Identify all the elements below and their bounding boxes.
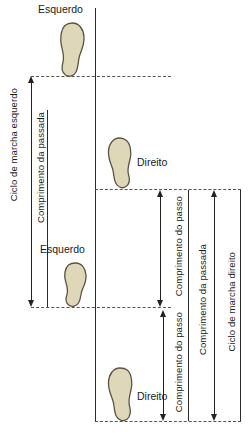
label-ciclo-marcha-direito: Ciclo de marcha direito [227, 252, 237, 351]
arrow-head-right-stride-bottom [211, 414, 217, 421]
left-measure-axis [47, 110, 48, 307]
label-foot-right-1: Direito [137, 157, 167, 168]
arrow-head-left-stride-top [28, 76, 34, 83]
label-foot-left-1: Esquerdo [38, 4, 83, 15]
footprint-right-2 [107, 367, 135, 422]
arrow-head-left-stride-bottom [28, 300, 34, 307]
footprint-right-1 [107, 137, 134, 190]
arrow-line-left-stride [31, 83, 32, 300]
arrow-head-step-2-top [160, 310, 166, 317]
footprint-left-1 [58, 22, 86, 78]
label-ciclo-marcha-esquerdo: Ciclo de marcha esquerdo [9, 88, 19, 201]
arrow-head-right-stride-top [211, 190, 217, 197]
dashed-guide-left-heel-1 [31, 76, 171, 77]
arrow-head-step-1-bottom [157, 300, 163, 307]
label-comprimento-passo-1: Comprimento do passo [174, 196, 184, 296]
label-foot-left-2: Esquerdo [40, 244, 85, 255]
midline-axis [95, 8, 96, 421]
arrow-head-step-2-bottom [160, 414, 166, 421]
arrow-line-step-1 [160, 197, 161, 300]
arrow-head-step-1-top [157, 190, 163, 197]
label-comprimento-passo-2: Comprimento do passo [174, 312, 184, 412]
arrow-line-right-stride [214, 197, 215, 414]
right-measure-axis-outer [240, 190, 241, 421]
footprint-left-2 [62, 262, 88, 308]
label-comprimento-passada-esquerda: Comprimento da passada [36, 112, 46, 223]
label-comprimento-passada-direita: Comprimento da passada [198, 244, 208, 355]
dashed-guide-left-heel-2 [31, 307, 171, 308]
gait-cycle-diagram: Esquerdo Direito Esquerdo Direito Ciclo … [0, 0, 248, 434]
label-foot-right-2: Direito [137, 391, 167, 402]
right-measure-axis-inner [188, 190, 189, 421]
